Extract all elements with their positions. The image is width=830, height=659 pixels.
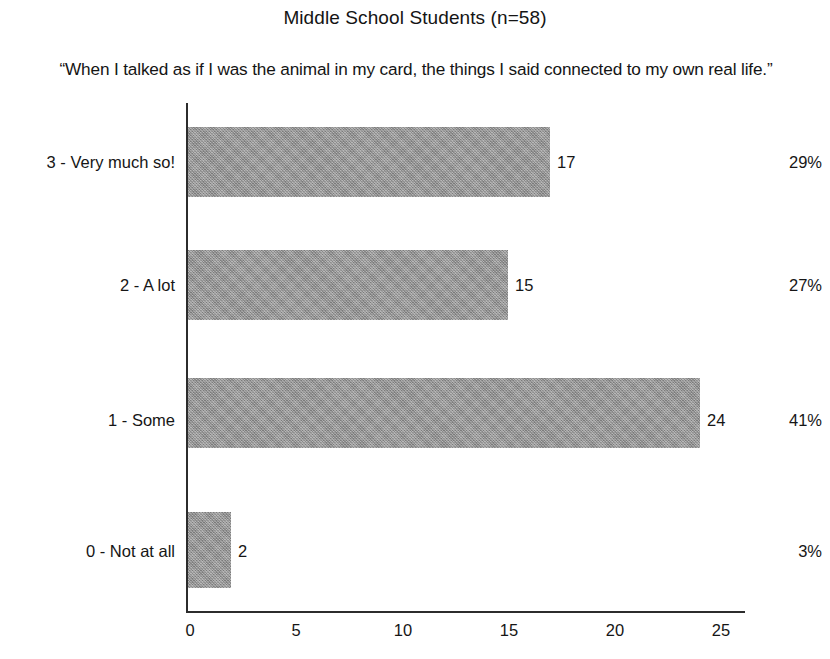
bar (188, 250, 508, 320)
x-axis-line (186, 611, 745, 613)
x-tick-label: 15 (487, 620, 531, 640)
bar (188, 512, 231, 588)
percent-label: 41% (732, 410, 822, 430)
bar-chart-plot-area: 3 - Very much so! 17 29% 2 - A lot 15 27… (0, 0, 830, 659)
bar-value-label: 2 (238, 541, 247, 561)
percent-label: 27% (732, 275, 822, 295)
bar-value-label: 15 (515, 275, 533, 295)
bar-row: 0 - Not at all 2 3% (0, 0, 830, 127)
x-tick-label: 10 (381, 620, 425, 640)
bar (188, 378, 700, 448)
x-tick-label: 5 (274, 620, 318, 640)
bar-value-label: 24 (707, 410, 725, 430)
category-label: 2 - A lot (0, 275, 175, 295)
x-tick-label: 25 (699, 620, 743, 640)
category-label: 1 - Some (0, 410, 175, 430)
bar (188, 127, 550, 197)
category-label: 3 - Very much so! (0, 152, 175, 172)
x-tick-label: 0 (168, 620, 212, 640)
percent-label: 3% (732, 541, 822, 561)
bar-value-label: 17 (557, 152, 575, 172)
category-label: 0 - Not at all (0, 541, 175, 561)
x-tick-label: 20 (593, 620, 637, 640)
percent-label: 29% (732, 152, 822, 172)
